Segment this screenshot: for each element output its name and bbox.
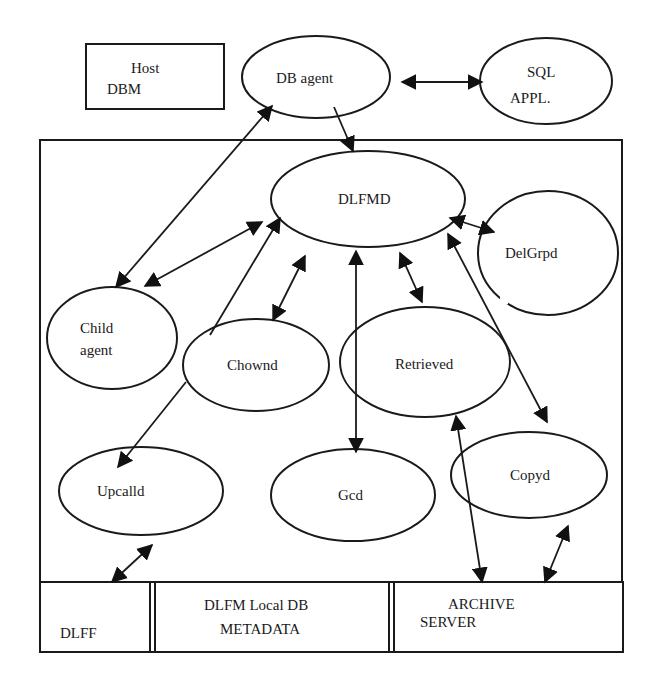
edge-dlfmd-retrieved: [400, 253, 422, 302]
upcalld-node: Upcalld: [59, 447, 223, 535]
dlfm-local-db-label-line1: DLFM Local DB: [204, 597, 308, 613]
delgrpd-node: DelGrpd: [478, 191, 618, 315]
db-agent-label: DB agent: [276, 70, 334, 86]
dlfmd-node: DLFMD: [271, 151, 465, 247]
edge-copyd-archive-server: [545, 526, 568, 582]
dlfm-local-db-label-line2: METADATA: [220, 621, 300, 637]
dlfmd-label: DLFMD: [338, 191, 391, 207]
edge-chownd-dlfmd-direct: [210, 218, 280, 335]
child-agent-node: Child agent: [47, 287, 177, 389]
copyd-label: Copyd: [510, 467, 551, 483]
retrieved-label: Retrieved: [395, 356, 454, 372]
chownd-node: Chownd: [183, 319, 329, 411]
archive-server-node: ARCHIVE SERVER: [420, 596, 515, 630]
architecture-diagram: Host DBM DB agent SQL APPL. DLFMD DelGrp…: [0, 0, 660, 688]
archive-server-label-line2: SERVER: [420, 614, 476, 630]
db-agent-node: DB agent: [242, 36, 390, 118]
delgrpd-label: DelGrpd: [505, 245, 558, 261]
dlfm-local-db-node: DLFM Local DB METADATA: [204, 597, 308, 637]
storage-strip: [40, 582, 623, 652]
host-dbm-label-line2: DBM: [107, 81, 141, 97]
edge-upcalld-dlff: [112, 545, 152, 582]
edge-dlfmd-copyd: [448, 234, 547, 422]
dlfm-system-boundary: [40, 140, 622, 582]
edge-chownd-upcalld: [118, 382, 186, 467]
dlff-node: DLFF: [60, 625, 97, 641]
retrieved-node: Retrieved: [340, 307, 510, 417]
gcd-label: Gcd: [338, 487, 363, 503]
dlff-label: DLFF: [60, 625, 97, 641]
gcd-node: Gcd: [271, 449, 435, 541]
copyd-node: Copyd: [451, 432, 607, 518]
edge-retrieved-archive-server: [456, 416, 482, 582]
edge-chownd-dlfmd-both: [273, 256, 305, 320]
chownd-label: Chownd: [227, 357, 278, 373]
sql-appl-label-line2: APPL.: [510, 90, 550, 106]
sql-appl-node: SQL APPL.: [480, 38, 612, 124]
sql-appl-label-line1: SQL: [527, 64, 555, 80]
child-agent-label-line2: agent: [80, 342, 113, 358]
host-dbm-label-line1: Host: [131, 60, 160, 76]
upcalld-label: Upcalld: [97, 483, 145, 499]
archive-server-label-line1: ARCHIVE: [448, 596, 515, 612]
host-dbm-node: Host DBM: [86, 44, 224, 109]
child-agent-label-line1: Child: [80, 320, 114, 336]
